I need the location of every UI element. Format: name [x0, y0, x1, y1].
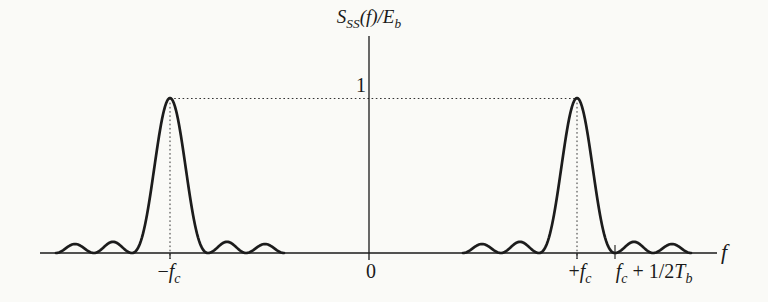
x-tick-label-neg-fc: −fc [157, 260, 180, 282]
one-text: 1 [356, 74, 366, 96]
psd-curves [56, 98, 691, 253]
zero-text: 0 [366, 260, 376, 282]
title-S: S [337, 6, 347, 27]
neg-fc-sign: − [157, 260, 168, 282]
neg-fc-subscript: c [174, 271, 180, 286]
pos-fc-subscript: c [585, 271, 591, 286]
y-axis-title: SSS(f)/Eb [337, 6, 401, 28]
x-axis-label-f: f [721, 241, 727, 263]
first-null-T: T [674, 260, 685, 282]
x-tick-label-zero: 0 [366, 260, 376, 282]
f-text: f [721, 239, 727, 264]
y-tick-label-one: 1 [356, 74, 366, 96]
pos-fc-sign: + [568, 260, 579, 282]
title-E-subscript: b [394, 16, 401, 31]
x-tick-label-first-null: fc + 1/2Tb [616, 260, 693, 282]
title-mid: (f)/E [360, 6, 395, 27]
title-S-subscript: SS [346, 16, 359, 31]
x-tick-label-pos-fc: +fc [568, 260, 591, 282]
first-null-mid: + 1/2 [627, 260, 674, 282]
plot-canvas [0, 0, 768, 302]
psd-figure: SSS(f)/Eb 1 0 −fc +fc fc + 1/2Tb f [0, 0, 768, 302]
first-null-T-subscript: b [685, 271, 692, 286]
